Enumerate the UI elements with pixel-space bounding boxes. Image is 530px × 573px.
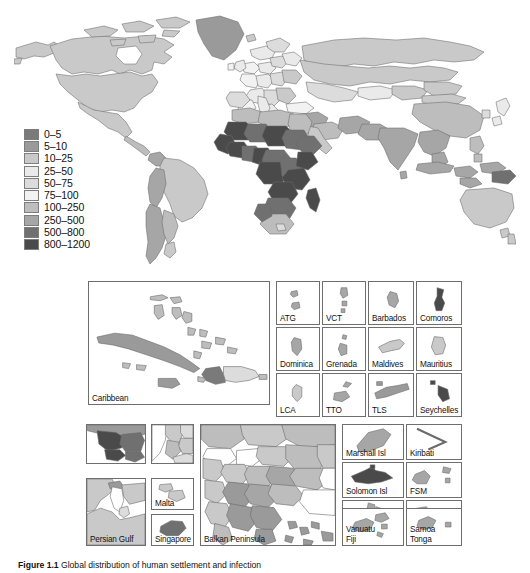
legend-item: 5–10 [24, 140, 124, 152]
inset-solomon-isl: Solomon Isl [342, 462, 404, 498]
legend-label-25-50: 25–50 [44, 166, 73, 177]
inset-label-tonga: Tonga [410, 535, 432, 544]
inset-label-vanuatu: Vanuatu [346, 525, 375, 534]
inset-malta: Malta [151, 478, 194, 510]
inset-seychelles: Seychelles [416, 373, 462, 417]
inset-kiribati: Kiribati [406, 424, 462, 460]
legend-item: 50–75 [24, 177, 124, 189]
inset-marshall-isl: Marshall Isl [342, 424, 404, 460]
legend-label-250-500: 250–500 [44, 215, 84, 226]
legend-item: 100–250 [24, 202, 124, 214]
legend-item: 800–1200 [24, 239, 124, 251]
inset-eastern-mediterranean: Eastern Mediterranean [151, 424, 194, 464]
inset-label-solomon-isl: Solomon Isl [346, 487, 387, 496]
legend-swatch-75-100 [24, 190, 39, 201]
inset-maldives: Maldives [368, 327, 414, 371]
inset-dominica: Dominica [276, 327, 320, 371]
inset-label-malta: Malta [155, 499, 174, 508]
legend-label-10-25: 10–25 [44, 153, 73, 164]
legend-swatch-800-1200 [24, 239, 39, 250]
inset-lca: LCA [276, 373, 320, 417]
legend-swatch-0-5 [24, 129, 39, 140]
inset-persian-gulf: Persian Gulf [86, 478, 146, 546]
caption-text: Global distribution of human settlement … [61, 560, 261, 570]
inset-tto: TTO [322, 373, 366, 417]
legend-label-100-250: 100–250 [44, 202, 84, 213]
legend-label-0-5: 0–5 [44, 129, 61, 140]
inset-comoros: Comoros [416, 281, 462, 325]
inset-label-seychelles: Seychelles [420, 406, 458, 415]
legend-label-75-100: 75–100 [44, 190, 78, 201]
inset-label-dominica: Dominica [280, 360, 313, 369]
legend-label-5-10: 5–10 [44, 141, 67, 152]
inset-label-fsm: FSM [410, 487, 427, 496]
inset-label-tls: TLS [372, 406, 387, 415]
legend-label-500-800: 500–800 [44, 227, 84, 238]
legend-item: 10–25 [24, 153, 124, 165]
inset-mauritius: Mauritius [416, 327, 462, 371]
inset-grenada: Grenada [322, 327, 366, 371]
inset-label-maldives: Maldives [372, 360, 403, 369]
inset-atg: ATG [276, 281, 320, 325]
inset-label-marshall-isl: Marshall Isl [346, 449, 386, 458]
legend-swatch-10-25 [24, 153, 39, 164]
inset-label-samoa: Samoa [410, 525, 435, 534]
inset-label-singapore: Singapore [155, 535, 191, 544]
figure-caption: Figure 1.1 Global distribution of human … [18, 560, 518, 571]
inset-label-atg: ATG [280, 314, 296, 323]
inset-label-kiribati: Kiribati [410, 449, 434, 458]
map-legend: 0–5 5–10 10–25 25–50 50–75 75–100 100–25… [24, 128, 124, 251]
legend-swatch-100-250 [24, 202, 39, 213]
legend-swatch-250-500 [24, 215, 39, 226]
inset-label-barbados: Barbados [372, 314, 406, 323]
inset-label-caribbean: Caribbean [92, 394, 128, 403]
legend-label-800-1200: 800–1200 [44, 239, 90, 250]
figure-container: 0–5 5–10 10–25 25–50 50–75 75–100 100–25… [0, 0, 530, 573]
legend-swatch-5-10 [24, 141, 39, 152]
legend-label-50-75: 50–75 [44, 178, 73, 189]
inset-label-comoros: Comoros [420, 314, 452, 323]
inset-label-grenada: Grenada [326, 360, 357, 369]
inset-label-mauritius: Mauritius [420, 360, 452, 369]
legend-swatch-500-800 [24, 227, 39, 238]
inset-label-vct: VCT [326, 314, 342, 323]
legend-item: 25–50 [24, 165, 124, 177]
inset-label-persian-gulf: Persian Gulf [90, 535, 133, 544]
inset-barbados: Barbados [368, 281, 414, 325]
inset-label-balkan-peninsula: Balkan Peninsula [204, 535, 265, 544]
inset-tls: TLS [368, 373, 414, 417]
inset-label-lca: LCA [280, 406, 295, 415]
legend-item: 500–800 [24, 226, 124, 238]
caption-number: Figure 1.1 [18, 560, 59, 570]
inset-caribbean: Caribbean [88, 281, 270, 405]
inset-singapore: Singapore [151, 514, 194, 546]
inset-balkan-peninsula: Balkan Peninsula [200, 424, 336, 546]
legend-item: 75–100 [24, 189, 124, 201]
inset-west-africa: West Africa [86, 424, 146, 464]
inset-label-tto: TTO [326, 406, 342, 415]
legend-swatch-25-50 [24, 166, 39, 177]
inset-label-eastern-mediterranean: Eastern Mediterranean [152, 463, 194, 464]
inset-fsm: FSM [406, 462, 462, 498]
legend-item: 250–500 [24, 214, 124, 226]
inset-label-fiji: Fiji [346, 535, 356, 544]
legend-swatch-50-75 [24, 178, 39, 189]
inset-vct: VCT [322, 281, 366, 325]
legend-item: 0–5 [24, 128, 124, 140]
